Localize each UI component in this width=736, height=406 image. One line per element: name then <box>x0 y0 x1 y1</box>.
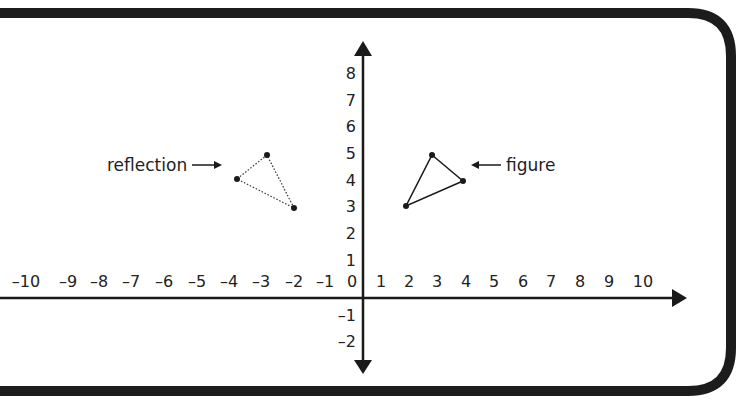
vertex-point <box>291 205 297 211</box>
x-tick-labels: –10 –9 –8 –7 –6 –5 –4 –3 –2 –1 0 1 2 3 4… <box>12 272 653 291</box>
x-tick: 6 <box>518 272 528 291</box>
x-tick: 7 <box>546 272 556 291</box>
x-tick: –7 <box>122 272 140 291</box>
x-tick: 0 <box>347 272 357 291</box>
y-tick: 7 <box>346 91 356 110</box>
vertex-point <box>429 152 435 158</box>
y-tick: 2 <box>346 224 356 243</box>
y-axis-up-arrow-icon <box>354 41 372 56</box>
x-tick: 2 <box>404 272 414 291</box>
y-tick: 5 <box>346 144 356 163</box>
frame-border <box>0 13 731 391</box>
x-tick: 4 <box>461 272 471 291</box>
x-tick: 3 <box>432 272 442 291</box>
vertex-point <box>234 176 240 182</box>
right-arrow-icon <box>214 161 222 169</box>
y-tick: –2 <box>338 332 356 351</box>
vertex-point <box>460 178 466 184</box>
x-tick: –4 <box>220 272 238 291</box>
y-tick: 6 <box>346 117 356 136</box>
y-tick: 8 <box>346 64 356 83</box>
reflection-label: reflection <box>107 155 187 175</box>
x-tick: 9 <box>604 272 614 291</box>
reflection-triangle <box>234 152 297 211</box>
y-tick-labels: 8 7 6 5 4 3 2 1 –1 –2 <box>338 64 356 351</box>
y-tick: 4 <box>346 171 356 190</box>
figure-triangle <box>403 152 466 209</box>
x-tick: –6 <box>155 272 173 291</box>
x-tick: 5 <box>489 272 499 291</box>
y-tick: 1 <box>346 251 356 270</box>
x-tick: –10 <box>12 272 40 291</box>
x-tick: –2 <box>285 272 303 291</box>
x-tick: 10 <box>633 272 653 291</box>
y-axis-down-arrow-icon <box>354 360 372 374</box>
x-tick: –9 <box>59 272 77 291</box>
y-tick: –1 <box>338 306 356 325</box>
x-tick: –1 <box>316 272 334 291</box>
x-tick: 8 <box>575 272 585 291</box>
x-tick: –5 <box>188 272 206 291</box>
vertex-point <box>403 203 409 209</box>
figure-label: figure <box>506 155 555 175</box>
x-tick: –8 <box>90 272 108 291</box>
coordinate-plane: –10 –9 –8 –7 –6 –5 –4 –3 –2 –1 0 1 2 3 4… <box>0 0 736 406</box>
x-axis-right-arrow-icon <box>672 289 687 307</box>
x-tick: –3 <box>252 272 270 291</box>
y-tick: 3 <box>346 197 356 216</box>
x-tick: 1 <box>376 272 386 291</box>
vertex-point <box>264 152 270 158</box>
left-arrow-icon <box>471 161 479 169</box>
